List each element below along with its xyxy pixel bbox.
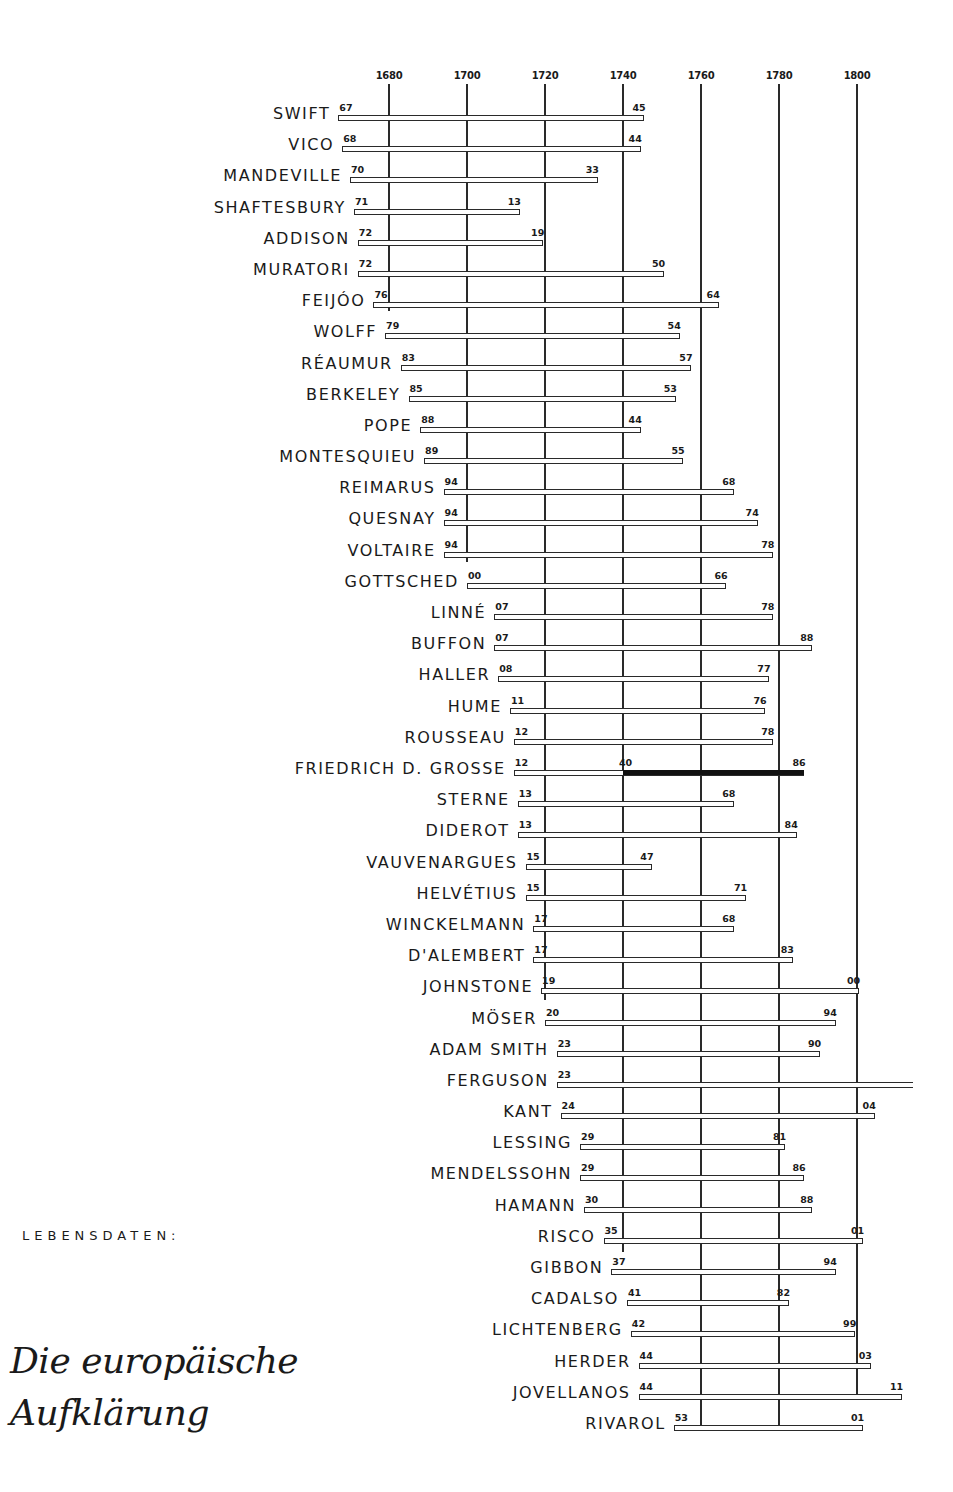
birth-year-label: 15 [527, 882, 540, 893]
person-name: VICO [288, 135, 334, 154]
x-tick-label: 1740 [610, 70, 637, 81]
birth-year-label: 76 [374, 289, 387, 300]
lifespan-bar [561, 1113, 875, 1119]
birth-year-label: 37 [612, 1256, 625, 1267]
death-year-label: 66 [714, 570, 727, 581]
birth-year-label: 44 [640, 1350, 653, 1361]
lifespan-bar [420, 427, 640, 433]
person-name: GIBBON [530, 1258, 603, 1277]
lifespan-bar [545, 1020, 836, 1026]
birth-year-label: 71 [355, 196, 368, 207]
person-name: POPE [364, 415, 412, 434]
birth-year-label: 12 [515, 726, 528, 737]
death-year-label: 86 [792, 757, 805, 768]
death-year-label: 01 [851, 1225, 864, 1236]
person-name: HERDER [554, 1351, 630, 1370]
person-name: ADDISON [264, 228, 350, 247]
person-name: DIDEROT [426, 821, 510, 840]
death-year-label: 64 [707, 289, 720, 300]
person-name: MÖSER [471, 1008, 537, 1027]
death-year-label: 77 [757, 663, 770, 674]
lifespan-bar [580, 1175, 804, 1181]
gridline [856, 84, 857, 1400]
death-year-label: 78 [761, 726, 774, 737]
birth-year-label: 41 [628, 1287, 641, 1298]
lifespan-bar [580, 1144, 785, 1150]
lifespan-bar [627, 1300, 789, 1306]
birth-year-label: 67 [339, 102, 352, 113]
birth-year-label: 29 [581, 1131, 594, 1142]
birth-year-label: 13 [519, 788, 532, 799]
birth-year-label: 53 [675, 1412, 688, 1423]
lifespan-bar [526, 864, 653, 870]
person-name: HAMANN [495, 1195, 576, 1214]
reign-bar [623, 770, 804, 775]
birth-year-label: 72 [359, 258, 372, 269]
x-tick-label: 1720 [532, 70, 559, 81]
person-name: REIMARUS [339, 478, 435, 497]
birth-year-label: 07 [495, 632, 508, 643]
person-name: JOVELLANOS [513, 1382, 631, 1401]
birth-year-label: 79 [386, 320, 399, 331]
title-line-1: Die europäische [10, 1340, 298, 1381]
person-name: MANDEVILLE [223, 166, 342, 185]
death-year-label: 19 [531, 227, 544, 238]
x-tick-label: 1680 [376, 70, 403, 81]
lifespan-bar [342, 146, 640, 152]
birth-year-label: 00 [468, 570, 481, 581]
death-year-label: 54 [668, 320, 681, 331]
person-name: FERGUSON [447, 1070, 549, 1089]
birth-year-label: 89 [425, 445, 438, 456]
gridline [778, 84, 779, 1427]
death-year-label: 78 [761, 539, 774, 550]
lifespan-bar [526, 895, 746, 901]
person-name: HELVÉTIUS [416, 883, 517, 902]
x-tick-label: 1780 [766, 70, 793, 81]
birth-year-label: 42 [632, 1318, 645, 1329]
lifespan-bar [494, 614, 773, 620]
death-year-label: 01 [851, 1412, 864, 1423]
lifespan-bar [401, 365, 692, 371]
person-name: FEIJÓO [302, 291, 366, 310]
person-name: RÉAUMUR [301, 353, 393, 372]
person-name: RISCO [538, 1226, 596, 1245]
death-year-label: 50 [652, 258, 665, 269]
person-name: STERNE [437, 790, 510, 809]
death-year-label: 84 [785, 819, 798, 830]
lifespan-bar [674, 1425, 863, 1431]
person-name: MENDELSSOHN [430, 1164, 572, 1183]
person-name: SHAFTESBURY [214, 197, 346, 216]
death-year-label: 81 [773, 1131, 786, 1142]
death-year-label: 68 [722, 913, 735, 924]
lifespan-bar [514, 739, 773, 745]
birth-year-label: 68 [343, 133, 356, 144]
person-name: CADALSO [531, 1289, 619, 1308]
death-year-label: 03 [859, 1350, 872, 1361]
death-year-label: 53 [664, 383, 677, 394]
gridline [622, 84, 623, 1252]
death-year-label: 94 [824, 1256, 837, 1267]
death-year-label: 78 [761, 601, 774, 612]
birth-year-label: 23 [558, 1038, 571, 1049]
lifespan-bar [639, 1394, 902, 1400]
birth-year-label: 85 [410, 383, 423, 394]
birth-year-label: 30 [585, 1194, 598, 1205]
lifespan-bar [350, 177, 598, 183]
lifespan-bar [409, 396, 676, 402]
gridline [700, 84, 701, 1427]
death-year-label: 76 [753, 695, 766, 706]
person-name: BERKELEY [306, 384, 400, 403]
lifespan-bar [604, 1238, 863, 1244]
lifespan-bar [510, 708, 766, 714]
lifespan-bar [584, 1207, 812, 1213]
death-year-label: 04 [863, 1100, 876, 1111]
lifespan-bar [557, 1051, 820, 1057]
death-year-label: 88 [800, 632, 813, 643]
lifespan-bar [358, 240, 543, 246]
person-name: MURATORI [253, 260, 350, 279]
person-name: RIVAROL [585, 1414, 666, 1433]
birth-year-label: 72 [359, 227, 372, 238]
death-year-label: 90 [808, 1038, 821, 1049]
death-year-label: 74 [746, 507, 759, 518]
person-name: MONTESQUIEU [279, 447, 416, 466]
